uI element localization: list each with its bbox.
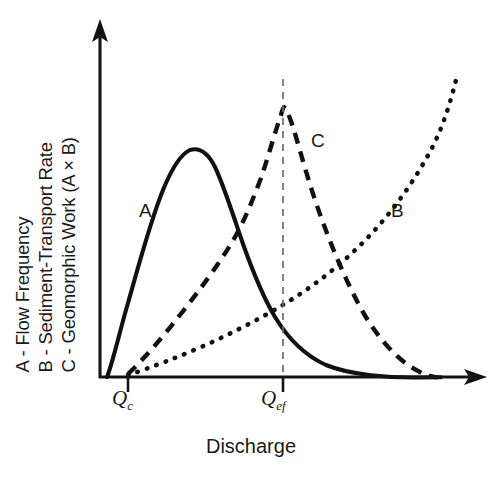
x-tick-label-qef: Qef	[261, 386, 286, 414]
effective-discharge-figure: A C B A - Flow Frequency B - Sediment-Tr…	[0, 0, 502, 484]
curve-label-b: B	[391, 200, 404, 221]
x-tick-label-qc-subscript: c	[127, 398, 133, 413]
y-axis-legend-line-b: B - Sediment-Transport Rate	[37, 142, 56, 372]
x-tick-label-qef-subscript: ef	[276, 398, 285, 413]
y-axis-legend-line-a: A - Flow Frequency	[14, 216, 33, 372]
y-axis-legend-block: A - Flow Frequency B - Sediment-Transpor…	[0, 0, 96, 380]
x-tick-label-qc-base: Q	[112, 386, 127, 410]
curve-label-a: A	[139, 200, 152, 221]
x-tick-label-qef-base: Q	[261, 386, 276, 410]
curve-label-c: C	[311, 130, 325, 151]
y-axis-legend-line-c: C - Geomorphic Work (A × B)	[60, 137, 79, 372]
x-axis-title: Discharge	[0, 435, 502, 458]
x-tick-label-qc: Qc	[112, 386, 133, 414]
